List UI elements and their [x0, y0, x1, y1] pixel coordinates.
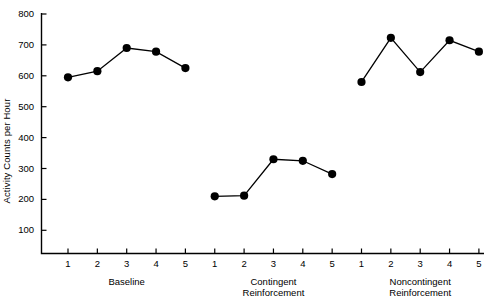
y-tick-label: 700: [4, 40, 34, 50]
x-tick-label: 5: [324, 259, 340, 269]
y-tick-label: 400: [4, 133, 34, 143]
data-series-lines: [68, 38, 479, 197]
x-tick-label: 1: [60, 259, 76, 269]
y-tick-label: 500: [4, 102, 34, 112]
x-tick-label: 4: [442, 259, 458, 269]
x-tick-label: 5: [177, 259, 193, 269]
phase-label-line: Reinforcement: [193, 287, 353, 299]
x-tick-label: 3: [119, 259, 135, 269]
x-tick-label: 1: [207, 259, 223, 269]
x-tick-label: 5: [471, 259, 487, 269]
phase-label: Baseline: [47, 276, 207, 288]
y-axis-ticks: [42, 14, 47, 230]
phase-label-line: Noncontingent: [340, 276, 488, 288]
phase-label: ContingentReinforcement: [193, 276, 353, 299]
x-tick-label: 3: [265, 259, 281, 269]
y-tick-label: 100: [4, 225, 34, 235]
x-tick-label: 2: [236, 259, 252, 269]
phase-label-line: Baseline: [47, 276, 207, 288]
axis-lines: [42, 13, 485, 254]
x-tick-label: 3: [412, 259, 428, 269]
phase-label: NoncontingentReinforcement: [340, 276, 488, 299]
x-axis-ticks: [68, 249, 479, 254]
x-tick-label: 2: [89, 259, 105, 269]
y-tick-label: 200: [4, 194, 34, 204]
phase-label-line: Contingent: [193, 276, 353, 288]
x-tick-label: 4: [295, 259, 311, 269]
chart-plot-area: [0, 0, 488, 302]
x-tick-label: 4: [148, 259, 164, 269]
y-tick-label: 800: [4, 9, 34, 19]
chart-figure: Activity Counts per Hour 100200300400500…: [0, 0, 488, 302]
phase-label-line: Reinforcement: [340, 287, 488, 299]
data-series-points: [64, 34, 483, 201]
x-tick-label: 1: [354, 259, 370, 269]
y-tick-label: 600: [4, 71, 34, 81]
y-tick-label: 300: [4, 164, 34, 174]
x-tick-label: 2: [383, 259, 399, 269]
